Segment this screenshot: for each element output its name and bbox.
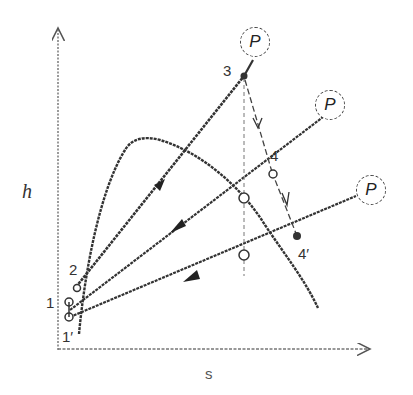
pressure-label-high: P: [240, 27, 270, 57]
pressure-text: P: [365, 180, 376, 200]
point-4prime-marker: [293, 232, 301, 240]
arrow-left-icon: [170, 219, 186, 233]
isobar-mid: [70, 117, 323, 310]
point-2-marker: [74, 285, 81, 292]
label-point-3: 3: [223, 63, 231, 78]
arrow-up-icon: [154, 179, 165, 191]
point-mid-intersection-marker: [239, 193, 249, 203]
label-point-4: 4: [270, 148, 278, 163]
arrow-down-icon: [253, 118, 262, 128]
pressure-text: P: [249, 32, 260, 52]
arrow-down-icon: [282, 192, 289, 205]
point-4-marker: [269, 170, 277, 178]
label-point-1: 1: [46, 295, 54, 310]
label-point-2: 2: [69, 262, 77, 277]
label-point-1prime: 1′: [62, 329, 73, 344]
compression-line: [76, 76, 244, 287]
point-low-intersection-marker: [239, 250, 249, 260]
pressure-label-mid: P: [315, 90, 345, 120]
y-axis-label: h: [22, 181, 32, 201]
label-point-4prime: 4′: [298, 246, 309, 261]
saturation-curve: [79, 138, 318, 334]
arrow-left-icon: [183, 270, 200, 282]
point-3-marker: [241, 73, 248, 80]
x-axis-label: s: [205, 366, 213, 381]
pressure-text: P: [324, 95, 335, 115]
pressure-label-low: P: [356, 175, 386, 205]
